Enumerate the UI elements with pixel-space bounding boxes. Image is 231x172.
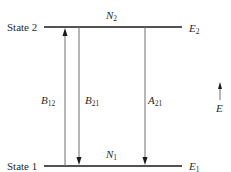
b12-label: B12 [41, 95, 55, 106]
e1-label: E1 [189, 161, 199, 172]
b21-label: B21 [85, 95, 99, 106]
state1-label: State 1 [7, 161, 37, 172]
energy-axis-arrow-icon [218, 82, 222, 100]
n2-label: N2 [106, 10, 117, 21]
b12-arrow [63, 28, 68, 166]
a21-arrow [143, 27, 148, 165]
energy-axis-label: E [216, 103, 223, 114]
e2-label: E2 [189, 23, 199, 34]
a21-label: A21 [148, 95, 162, 106]
n1-label: N1 [106, 149, 117, 160]
b21-arrow [77, 27, 82, 165]
state2-label: State 2 [7, 22, 37, 33]
